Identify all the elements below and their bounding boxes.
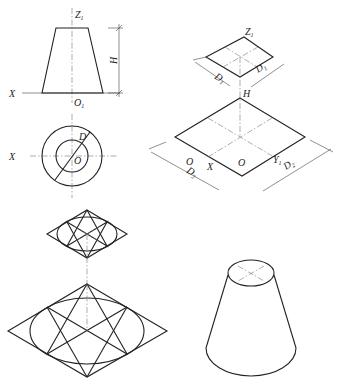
finished-frustum: [206, 260, 296, 376]
frustum-top-ellipse: [228, 260, 274, 286]
top-x-label: X: [8, 151, 16, 162]
d2-right-label: D2: [280, 157, 296, 173]
iso-x-label: X: [206, 161, 214, 172]
top-d-label: D: [78, 131, 87, 142]
frustum-isometric-diagram: Z1 X O1 H X D O D1 D1 Z1 H: [0, 0, 337, 392]
front-h-label: H: [108, 56, 119, 65]
d2-right-ext: [310, 140, 333, 152]
front-origin-label: O1: [74, 97, 84, 109]
iso-construction: D1 D1 Z1 H O O X Y1 D2 D2: [149, 26, 333, 191]
frustum-bottom-arc: [206, 348, 296, 376]
iso-z-label: Z1: [245, 26, 254, 38]
small-rhombus-axis-2: [223, 47, 258, 67]
iso-h-label: H: [242, 88, 251, 99]
front-x-label: X: [8, 88, 16, 99]
front-z-label: Z1: [75, 9, 84, 21]
frustum-left-edge: [206, 275, 228, 348]
small-star-a: [67, 210, 107, 246]
d1-left-label: D1: [212, 70, 228, 86]
top-view: X D O: [8, 114, 118, 198]
d1-left-ext: [193, 57, 206, 60]
frustum-right-edge: [274, 275, 296, 348]
iso-y-label: Y1: [273, 154, 282, 166]
ellipse-construction: [8, 210, 167, 377]
top-o-label: O: [74, 155, 81, 166]
iso-o-label-main: O: [238, 157, 245, 168]
front-view: Z1 X O1 H: [8, 8, 123, 109]
d1-right-label: D1: [252, 60, 268, 76]
front-view-trapezoid: [42, 28, 103, 93]
d2-left-ext: [149, 142, 166, 149]
